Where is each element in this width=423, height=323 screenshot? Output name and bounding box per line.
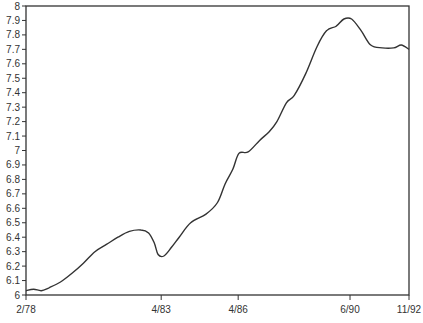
x-tick-label: 11/92 (397, 304, 422, 315)
y-tick-label: 6.3 (6, 246, 20, 257)
y-tick-label: 7.1 (6, 131, 20, 142)
y-tick-label: 6.1 (6, 275, 20, 286)
y-axis-ticks: 66.16.26.36.46.56.66.76.86.977.17.27.37.… (6, 1, 26, 301)
y-tick-label: 7.5 (6, 73, 20, 84)
y-tick-label: 6.2 (6, 261, 20, 272)
y-tick-label: 7.3 (6, 102, 20, 113)
x-axis-ticks: 2/784/834/866/9011/92 (16, 295, 421, 315)
y-tick-label: 6.8 (6, 174, 20, 185)
y-tick-label: 7 (14, 145, 20, 156)
y-tick-label: 6.4 (6, 232, 20, 243)
x-tick-label: 6/90 (340, 304, 360, 315)
y-tick-label: 6.9 (6, 159, 20, 170)
y-tick-label: 6.5 (6, 217, 20, 228)
y-tick-label: 7.9 (6, 15, 20, 26)
line-chart: 66.16.26.36.46.56.66.76.86.977.17.27.37.… (0, 0, 423, 323)
y-tick-label: 6.7 (6, 188, 20, 199)
y-tick-label: 7.7 (6, 44, 20, 55)
y-tick-label: 7.2 (6, 116, 20, 127)
y-tick-label: 7.6 (6, 58, 20, 69)
x-tick-label: 2/78 (16, 304, 36, 315)
y-tick-label: 6 (14, 290, 20, 301)
x-tick-label: 4/86 (228, 304, 248, 315)
x-tick-label: 4/83 (151, 304, 171, 315)
y-tick-label: 8 (14, 1, 20, 12)
plot-frame (26, 6, 409, 295)
y-tick-label: 7.8 (6, 29, 20, 40)
series-line (26, 18, 409, 291)
y-tick-label: 7.4 (6, 87, 20, 98)
y-tick-label: 6.6 (6, 203, 20, 214)
